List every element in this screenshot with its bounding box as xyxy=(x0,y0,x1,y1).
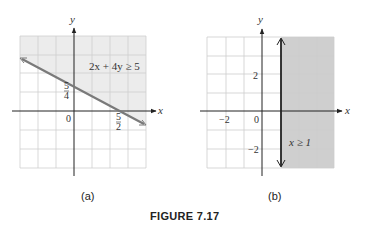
x-intercept-fraction: 5 2 xyxy=(116,111,121,132)
panel-label-b: (b) xyxy=(268,190,281,202)
x-axis-label-b: x xyxy=(344,104,350,116)
svg-text:2: 2 xyxy=(116,121,121,132)
svg-text:4: 4 xyxy=(64,90,69,101)
inequality-label-a: 2x + 4y ≥ 5 xyxy=(89,60,140,72)
y-intercept-fraction: 5 4 xyxy=(64,80,69,101)
origin-label-b: 0 xyxy=(254,114,259,125)
panel-label-a: (a) xyxy=(81,190,94,202)
origin-label-a: 0 xyxy=(66,113,71,124)
figure-caption: FIGURE 7.17 xyxy=(150,210,219,222)
shaded-region-b xyxy=(281,37,334,168)
shaded-region-a xyxy=(20,36,146,126)
panel-a: x y 2x + 4y ≥ 5 5 4 0 5 2 xyxy=(12,13,163,176)
panel-b: x y −2 0 2 −2 x ≥ 1 xyxy=(200,13,350,176)
x-axis-label-a: x xyxy=(157,104,163,116)
y-axis-label-a: y xyxy=(69,13,75,25)
tick-y-pos2: 2 xyxy=(253,70,258,81)
inequality-label-b: x ≥ 1 xyxy=(288,136,311,148)
tick-y-neg2: −2 xyxy=(248,144,259,155)
figure-canvas: x y 2x + 4y ≥ 5 5 4 0 5 2 xyxy=(0,0,370,231)
tick-x-neg2: −2 xyxy=(219,114,230,125)
y-axis-label-b: y xyxy=(257,13,263,25)
